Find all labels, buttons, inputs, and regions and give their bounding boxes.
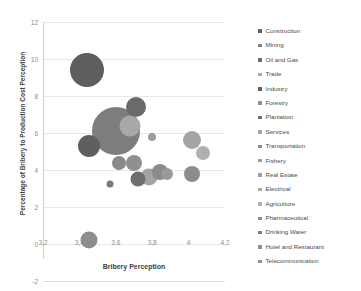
legend-marker-icon [258, 231, 262, 235]
legend-item-plantation[interactable]: Plantation [258, 110, 358, 124]
legend-item-agriculture[interactable]: Agriculture [258, 197, 358, 211]
legend-marker-icon [258, 73, 262, 77]
legend-item-mining[interactable]: Mining [258, 38, 358, 52]
x-tick-label: 4,2 [212, 239, 238, 246]
legend-marker-icon [258, 260, 262, 264]
legend-item-label: Telecommunication [266, 254, 319, 268]
legend-item-label: Hotel and Restaurant [266, 240, 324, 254]
bubble-fishery [161, 168, 173, 180]
legend-marker-icon [258, 87, 262, 91]
legend-item-electrical[interactable]: Electrical [258, 182, 358, 196]
legend-item-services[interactable]: Services [258, 125, 358, 139]
legend-item-label: Real Estate [266, 168, 298, 182]
legend-marker-icon [258, 188, 262, 192]
legend-marker-icon [258, 116, 262, 120]
legend-marker-icon [258, 202, 262, 206]
bubble-chart: 121086420-2 3,23,43,63,844,2 Bribery Per… [0, 0, 361, 291]
legend-item-label: Fishery [266, 154, 286, 168]
legend-item-label: Oil and Gas [266, 53, 299, 67]
x-tick-label: 3,6 [103, 239, 129, 246]
gridline [43, 281, 225, 282]
bubble-construction [70, 53, 104, 87]
legend-marker-icon [258, 58, 262, 62]
legend-marker-icon [258, 159, 262, 163]
bubble-plantation [130, 172, 145, 187]
legend-marker-icon [258, 245, 262, 249]
legend-item-label: Industry [266, 82, 288, 96]
legend-item-label: Mining [266, 38, 284, 52]
bubble-oil-and-gas [126, 97, 146, 117]
legend-marker-icon [258, 101, 262, 105]
bubble-industry [78, 135, 100, 157]
legend-item-label: Forestry [266, 96, 289, 110]
legend-marker-icon [258, 217, 262, 221]
x-axis-title: Bribery Perception [43, 263, 225, 270]
legend-item-label: Services [266, 125, 290, 139]
legend-marker-icon [258, 145, 262, 149]
x-tick-label: 3,2 [30, 239, 56, 246]
legend-marker-icon [258, 173, 262, 177]
y-tick-label: -2 [10, 281, 38, 288]
y-axis-title: Percentage of Bribery to Production Cost… [19, 29, 26, 239]
bubble-drinking-water [107, 180, 114, 187]
legend-item-drinking-water[interactable]: Drinking Water [258, 225, 358, 239]
bubble-real-estate [148, 133, 156, 141]
legend-item-label: Agriculture [266, 197, 296, 211]
legend-item-label: Plantation [266, 110, 294, 124]
legend-item-industry[interactable]: Industry [258, 82, 358, 96]
legend-item-trade[interactable]: Trade [258, 67, 358, 81]
legend-item-label: Construction [266, 24, 301, 38]
legend: ConstructionMiningOil and GasTradeIndust… [258, 24, 358, 269]
legend-marker-icon [258, 44, 262, 48]
x-tick-label: 3,4 [66, 239, 92, 246]
bubble-trade [120, 115, 141, 136]
bubble-telecommunication [112, 156, 126, 170]
x-tick-label: 4 [176, 239, 202, 246]
legend-marker-icon [258, 29, 262, 33]
legend-item-fishery[interactable]: Fishery [258, 154, 358, 168]
legend-item-transportation[interactable]: Transportation [258, 139, 358, 153]
legend-marker-icon [258, 130, 262, 134]
bubble-forestry [126, 155, 142, 171]
bubble-agriculture [196, 146, 210, 160]
bubble-pharmaceutical [184, 166, 200, 182]
legend-item-label: Drinking Water [266, 225, 307, 239]
legend-item-label: Pharmaceutical [266, 211, 309, 225]
legend-item-label: Trade [266, 67, 282, 81]
x-tick-label: 3,8 [139, 239, 165, 246]
legend-item-oil-and-gas[interactable]: Oil and Gas [258, 53, 358, 67]
legend-item-forestry[interactable]: Forestry [258, 96, 358, 110]
legend-item-pharmaceutical[interactable]: Pharmaceutical [258, 211, 358, 225]
legend-item-label: Transportation [266, 139, 306, 153]
legend-item-real-estate[interactable]: Real Estate [258, 168, 358, 182]
legend-item-label: Electrical [266, 182, 291, 196]
legend-item-hotel-and-restaurant[interactable]: Hotel and Restaurant [258, 240, 358, 254]
legend-item-construction[interactable]: Construction [258, 24, 358, 38]
legend-item-telecommunication[interactable]: Telecommunication [258, 254, 358, 268]
